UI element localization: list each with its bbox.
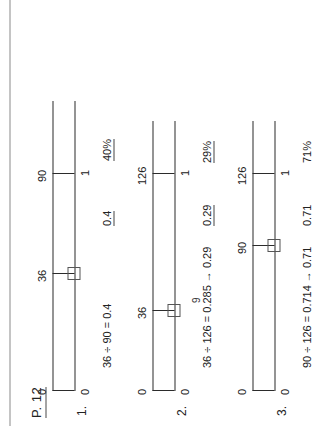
tick-whole: [52, 173, 74, 174]
answer-decimal: 0.4: [100, 211, 114, 226]
page-top-rule: [9, 0, 10, 426]
upper-label-part: 90: [235, 242, 247, 254]
tick-zero: [152, 390, 174, 391]
lower-label-0: 0: [278, 389, 290, 395]
upper-label-0: 0: [35, 389, 47, 395]
lower-label-0: 0: [78, 389, 90, 395]
number-line-lower: [74, 101, 75, 391]
number-line-lower: [274, 121, 275, 391]
answer-box-marker[interactable]: [167, 304, 180, 317]
upper-label-0: 0: [135, 389, 147, 395]
lower-label-0: 0: [178, 389, 190, 395]
number-line-lower: [174, 121, 175, 391]
answer-box-marker[interactable]: [267, 239, 280, 252]
upper-label-part: 36: [35, 270, 47, 282]
tick-zero: [252, 390, 274, 391]
problem-number: 1.: [74, 406, 88, 416]
work-expression: 36 ÷ 90 = 0.4: [100, 304, 112, 368]
lower-label-1: 1: [278, 170, 290, 176]
answer-decimal: 0.71: [300, 205, 313, 226]
lower-label-1: 1: [78, 170, 90, 176]
worksheet-page: P. 12 1. 0 36 90 0 1 36 ÷ 90 = 0.4 0.4 4…: [0, 0, 331, 426]
work-expression: 90 ÷ 126 = 0.714 → 0.71: [300, 247, 312, 368]
work-expression: 36 ÷ 126 = 0.285 → 0.29: [200, 247, 212, 368]
answer-percent: 71%: [300, 141, 313, 163]
answer-box-marker[interactable]: [67, 267, 80, 280]
tick-whole: [152, 173, 174, 174]
problem-number: 3.: [274, 406, 288, 416]
answer-percent: 29%: [200, 141, 214, 163]
upper-label-whole: 126: [135, 167, 147, 185]
upper-label-whole: 90: [35, 170, 47, 182]
problem-number: 2.: [174, 406, 188, 416]
handwritten-digit-annotation: 9: [190, 297, 201, 303]
answer-decimal: 0.29: [200, 205, 214, 226]
upper-label-whole: 126: [235, 167, 247, 185]
lower-label-1: 1: [178, 170, 190, 176]
answer-percent: 40%: [100, 139, 114, 161]
tick-whole: [252, 173, 274, 174]
number-line-upper: [252, 121, 253, 391]
upper-label-0: 0: [235, 389, 247, 395]
upper-label-part: 36: [135, 307, 147, 319]
tick-zero: [52, 390, 74, 391]
number-line-upper: [52, 101, 53, 391]
number-line-upper: [152, 121, 153, 391]
